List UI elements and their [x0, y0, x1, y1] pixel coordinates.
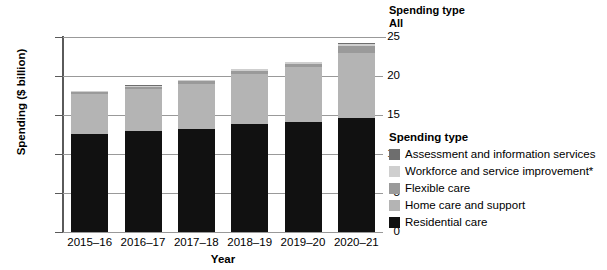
- legend-items: Assessment and information servicesWorkf…: [389, 146, 607, 230]
- bar-segment-residential-care[interactable]: [125, 131, 162, 232]
- y-axis-tick: [55, 76, 63, 77]
- legend-title: Spending type: [389, 131, 607, 143]
- legend-item-label: Assessment and information services: [405, 148, 595, 161]
- y-axis-tick: [55, 115, 63, 116]
- bar-chart: 0510152025 Spending ($ billion) 2015–162…: [0, 0, 400, 270]
- bar-segment-home-care-and-support[interactable]: [178, 84, 215, 129]
- legend-item[interactable]: Assessment and information services: [389, 146, 607, 162]
- legend-item-label: Residential care: [405, 216, 487, 229]
- bar-segment-residential-care[interactable]: [285, 122, 322, 232]
- bar-segment-residential-care[interactable]: [231, 124, 268, 232]
- y-axis-tick: [55, 154, 63, 155]
- y-axis-tick: [55, 193, 63, 194]
- legend-item-label: Home care and support: [405, 199, 525, 212]
- x-axis-line: [62, 232, 383, 233]
- filter-caption: Spending type All: [389, 4, 465, 30]
- bar-2017-18[interactable]: [178, 80, 215, 232]
- bar-segment-flexible-care[interactable]: [338, 46, 375, 53]
- legend-swatch-icon: [389, 149, 400, 160]
- legend-item[interactable]: Workforce and service improvement*: [389, 163, 607, 179]
- x-axis-tick-label: 2020–21: [325, 236, 387, 248]
- filter-value[interactable]: All: [389, 17, 465, 30]
- legend-item-label: Workforce and service improvement*: [405, 165, 593, 178]
- plot-area: [63, 37, 383, 232]
- bar-segment-residential-care[interactable]: [71, 134, 108, 232]
- bar-segment-residential-care[interactable]: [338, 118, 375, 232]
- x-axis-title: Year: [63, 253, 383, 265]
- legend-item[interactable]: Flexible care: [389, 180, 607, 196]
- filter-title: Spending type: [389, 4, 465, 17]
- y-axis-tick: [55, 232, 63, 233]
- legend-swatch-icon: [389, 200, 400, 211]
- bar-2016-17[interactable]: [125, 85, 162, 232]
- bar-segment-home-care-and-support[interactable]: [285, 67, 322, 122]
- bar-segment-home-care-and-support[interactable]: [125, 89, 162, 131]
- legend-swatch-icon: [389, 183, 400, 194]
- bar-segment-home-care-and-support[interactable]: [231, 74, 268, 125]
- bar-segment-residential-care[interactable]: [178, 129, 215, 232]
- bar-segment-home-care-and-support[interactable]: [71, 94, 108, 134]
- bar-segment-home-care-and-support[interactable]: [338, 53, 375, 119]
- legend-swatch-icon: [389, 166, 400, 177]
- y-axis-tick: [55, 37, 63, 38]
- bar-2020-21[interactable]: [338, 43, 375, 232]
- bar-2019-20[interactable]: [285, 62, 322, 232]
- legend-item-label: Flexible care: [405, 182, 470, 195]
- legend-item[interactable]: Residential care: [389, 214, 607, 230]
- bar-2018-19[interactable]: [231, 69, 268, 232]
- bar-2015-16[interactable]: [71, 91, 108, 232]
- y-axis-title: Spending ($ billion): [15, 17, 27, 187]
- legend: Spending type Assessment and information…: [389, 131, 607, 231]
- legend-swatch-icon: [389, 217, 400, 228]
- legend-item[interactable]: Home care and support: [389, 197, 607, 213]
